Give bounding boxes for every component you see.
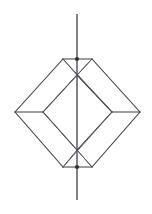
marker-apex-top (75, 57, 79, 61)
marker-apex-bottom (75, 165, 79, 169)
edge-outer-upper-left (15, 59, 63, 112)
edge-outer-lower-left (15, 112, 63, 167)
edge-diagonal-bottom-left-up (63, 112, 112, 167)
edge-outer-upper-right (92, 59, 140, 112)
edge-diagonal-top-right-down (43, 59, 92, 112)
edge-outer-lower-right (92, 112, 140, 167)
edge-diagonal-bottom-right-up (43, 112, 92, 167)
edge-diagonal-top-left-down (63, 59, 112, 112)
octahedron-wireframe-svg (0, 0, 152, 214)
figure-canvas (0, 0, 152, 214)
